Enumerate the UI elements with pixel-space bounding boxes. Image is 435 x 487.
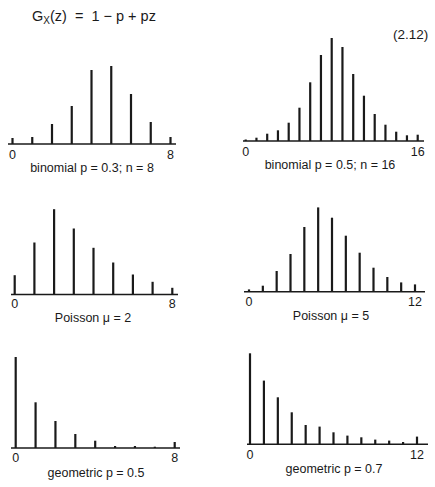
stem-plot-0 xyxy=(8,66,176,144)
plot-caption: binomial p = 0.3; n = 8 xyxy=(30,161,154,175)
x-tick-label-min: 0 xyxy=(12,451,19,465)
plot-caption: geometric p = 0.7 xyxy=(286,462,383,476)
x-tick-label-max: 8 xyxy=(169,297,176,311)
stem-plot-2 xyxy=(11,209,178,294)
stem-plot-3 xyxy=(244,207,425,291)
x-tick-label-max: 12 xyxy=(408,295,422,309)
x-tick-label-max: 8 xyxy=(171,451,178,465)
distribution-plots xyxy=(0,0,435,487)
stem-plot-4 xyxy=(11,357,180,448)
plot-caption: Poisson μ = 2 xyxy=(55,311,131,325)
stem-plot-5 xyxy=(247,353,428,444)
x-tick-label-min: 0 xyxy=(242,145,249,159)
x-tick-label-max: 12 xyxy=(410,448,424,462)
x-tick-label-max: 8 xyxy=(167,148,174,162)
x-tick-label-min: 0 xyxy=(246,295,253,309)
stem-plot-1 xyxy=(243,38,424,141)
plot-caption: binomial p = 0.5; n = 16 xyxy=(265,158,396,172)
x-tick-label-max: 16 xyxy=(411,145,425,159)
plot-caption: geometric p = 0.5 xyxy=(48,466,145,480)
x-tick-label-min: 0 xyxy=(9,148,16,162)
x-tick-label-min: 0 xyxy=(11,297,18,311)
plot-caption: Poisson μ = 5 xyxy=(293,309,369,323)
x-tick-label-min: 0 xyxy=(247,448,254,462)
